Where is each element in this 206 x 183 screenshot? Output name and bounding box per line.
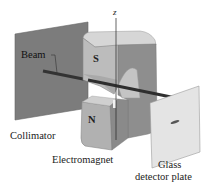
electromagnet-label: Electromagnet bbox=[52, 155, 113, 166]
magnet-slot bbox=[113, 100, 116, 108]
collimator-plate bbox=[15, 22, 88, 120]
stern-gerlach-diagram: S N z Beam Collimator Electromagnet Glas… bbox=[0, 0, 206, 183]
collimator-label: Collimator bbox=[10, 131, 56, 142]
detector-label-line1: Glass bbox=[158, 160, 181, 171]
detector-label-line2: detector plate bbox=[135, 172, 192, 183]
magnet-north-face bbox=[81, 102, 112, 150]
south-pole-label: S bbox=[93, 54, 99, 65]
beam-label: Beam bbox=[21, 50, 46, 61]
glass-detector-plate bbox=[150, 86, 200, 168]
north-pole-label: N bbox=[88, 115, 96, 126]
magnet-north-side bbox=[110, 99, 128, 150]
z-axis-label: z bbox=[113, 8, 117, 17]
